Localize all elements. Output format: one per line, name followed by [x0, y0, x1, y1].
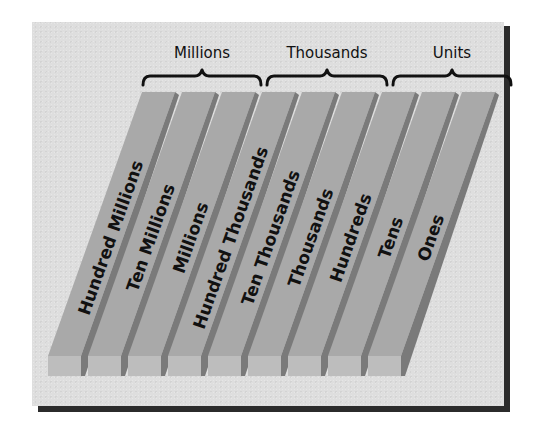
place-value-bars: Hundred MillionsTen MillionsMillionsHund…	[48, 92, 499, 376]
bracket-millions-icon	[143, 70, 261, 85]
group-label-units: Units	[433, 44, 472, 62]
place-value-diagram: Millions Thousands Units Hundred Million…	[0, 0, 551, 430]
group-label-millions: Millions	[174, 44, 230, 62]
bracket-units-icon	[393, 70, 511, 85]
bracket-thousands-icon	[267, 70, 387, 85]
group-label-thousands: Thousands	[285, 44, 367, 62]
diagram-stage: Millions Thousands Units Hundred Million…	[0, 0, 551, 430]
